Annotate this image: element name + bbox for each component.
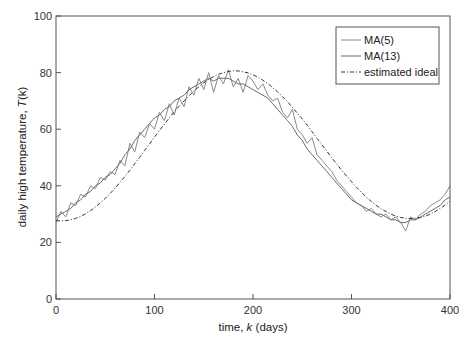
x-tick-label: 100 xyxy=(145,304,163,316)
y-tick-label: 60 xyxy=(40,123,52,135)
y-tick-label: 80 xyxy=(40,67,52,79)
x-tick-label: 400 xyxy=(441,304,459,316)
x-tick-label: 0 xyxy=(53,304,59,316)
legend-label-ma13: MA(13) xyxy=(364,50,400,62)
y-tick-label: 0 xyxy=(46,293,52,305)
x-axis-label: time, k (days) xyxy=(218,321,287,333)
line-chart: 0100200300400020406080100 time, k (days)… xyxy=(0,0,472,354)
x-tick-label: 300 xyxy=(342,304,360,316)
y-tick-label: 20 xyxy=(40,236,52,248)
x-tick-label: 200 xyxy=(244,304,262,316)
legend-label-ma5: MA(5) xyxy=(364,34,394,46)
legend-label-ideal: estimated ideal xyxy=(364,66,438,78)
y-tick-label: 40 xyxy=(40,180,52,192)
y-axis-label: daily high temperature, T(k) xyxy=(16,87,28,228)
y-tick-label: 100 xyxy=(34,10,52,22)
legend: MA(5) MA(13) estimated ideal xyxy=(336,27,439,84)
